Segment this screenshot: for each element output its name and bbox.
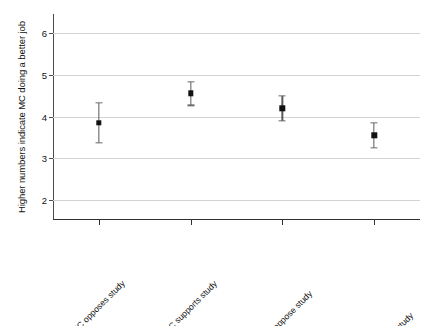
error-bar-cap [279,120,286,121]
x-tick-mark [282,220,283,225]
x-tick-label: MC supports study [212,228,270,286]
data-point [96,120,101,125]
error-bar-chart: Higher numbers indicate MC doing a bette… [0,0,438,326]
error-bar-cap [371,122,378,123]
gridline [53,117,420,118]
y-axis-title: Higher numbers indicate MC doing a bette… [14,14,30,220]
x-tick-label-text: Dr + MC oppose study [247,289,315,326]
error-bar-cap [371,147,378,148]
gridline [53,158,420,159]
data-point [371,133,376,138]
x-tick-mark [191,220,192,225]
x-tick-label: MC opposes study [120,228,177,285]
x-tick-label-text: Dr oppose + MC support study [326,311,416,326]
x-tick-label: Dr + MC oppose study [307,228,375,296]
x-tick-mark [374,220,375,225]
gridline [53,33,420,34]
x-tick-label: Dr oppose + MC support study [408,228,438,318]
error-bar-cap [187,81,194,82]
y-tick-label: 6 [42,27,47,38]
x-tick-mark [99,220,100,225]
y-tick-mark [49,75,53,76]
y-tick-label: 4 [42,111,47,122]
y-tick-label: 5 [42,69,47,80]
data-point [188,91,193,96]
x-tick-label-text: MC supports study [161,279,219,326]
y-tick-label: 3 [42,153,47,164]
y-tick-mark [49,200,53,201]
x-axis-spine [53,219,420,220]
y-tick-mark [49,158,53,159]
error-bar-cap [95,142,102,143]
error-bar-cap [279,95,286,96]
error-bar-cap [187,105,194,106]
y-tick-mark [49,33,53,34]
gridline [53,75,420,76]
error-bar-cap [95,102,102,103]
plot-area: 23456 [53,14,420,219]
data-point [280,105,285,110]
y-tick-mark [49,117,53,118]
y-tick-label: 2 [42,195,47,206]
x-tick-label-text: MC opposes study [69,278,126,326]
gridline [53,200,420,201]
